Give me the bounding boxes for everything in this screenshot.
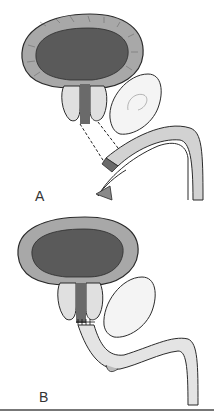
anatomy-illustration-b — [0, 205, 214, 408]
bottom-divider — [0, 409, 214, 411]
panel-label-b: B — [39, 389, 48, 405]
anatomy-illustration-a — [0, 0, 214, 205]
figure-panel-a: A — [0, 0, 214, 205]
figure-panel-b: B — [0, 205, 214, 408]
panel-label-a: A — [35, 188, 44, 204]
